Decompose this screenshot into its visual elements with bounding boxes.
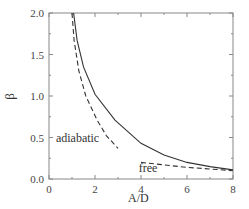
y-tick-label: 2.0 [30, 7, 44, 19]
x-axis-label: A/D [128, 192, 149, 204]
x-tick-label: 0 [46, 183, 52, 195]
x-tick-label: 2 [92, 183, 98, 195]
y-tick-label: 1.5 [30, 49, 44, 61]
y-axis-label: β [3, 93, 16, 100]
x-tick-label: 6 [184, 183, 190, 195]
chart-plot: 024680.00.51.01.52.0adiabaticfree [0, 0, 249, 209]
series-solid [74, 13, 233, 170]
annotation-free: free [139, 161, 158, 175]
y-tick-label: 0.0 [30, 173, 44, 185]
series-adiabatic [72, 13, 118, 148]
annotation-adiabatic: adiabatic [56, 131, 99, 145]
y-tick-label: 0.5 [30, 132, 44, 144]
x-tick-label: 8 [230, 183, 236, 195]
y-tick-label: 1.0 [30, 90, 44, 102]
